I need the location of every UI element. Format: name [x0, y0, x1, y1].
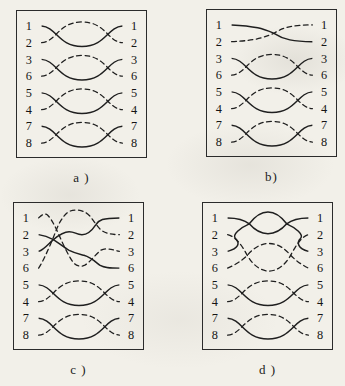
wire-dashed-2 [39, 214, 120, 266]
panel-b-box: 1236547812365478 [206, 9, 337, 157]
row-label-right-2: 2 [128, 228, 134, 242]
row-label-left-8: 8 [216, 135, 222, 149]
panel-a: 1236547812365478 a ) [16, 10, 147, 186]
row-label-left-7: 7 [212, 311, 218, 325]
row-label-right-7: 7 [131, 119, 137, 133]
row-label-left-7: 7 [216, 118, 222, 132]
row-label-right-8: 8 [128, 328, 134, 342]
wire-solid-0 [39, 218, 120, 251]
row-label-left-6: 6 [23, 261, 29, 275]
row-label-right-1: 1 [128, 211, 134, 225]
row-label-left-1: 1 [216, 18, 222, 32]
row-label-right-2: 2 [321, 35, 327, 49]
panel-c-box: 1236547812365478 [13, 202, 144, 350]
row-label-left-5: 5 [216, 85, 222, 99]
wire-solid-0 [232, 25, 313, 42]
panel-a-box: 1236547812365478 [16, 10, 147, 158]
row-label-left-3: 3 [23, 245, 29, 259]
row-label-left-6: 6 [26, 69, 32, 83]
panel-d-caption: d ) [202, 362, 333, 378]
row-label-right-6: 6 [131, 69, 137, 83]
row-label-right-5: 5 [131, 86, 137, 100]
row-label-left-1: 1 [26, 19, 32, 33]
row-label-right-3: 3 [321, 52, 327, 66]
panel-c-diagram: 1236547812365478 [14, 203, 143, 349]
row-label-left-2: 2 [216, 35, 222, 49]
row-label-left-1: 1 [212, 211, 218, 225]
row-label-right-5: 5 [128, 278, 134, 292]
row-label-right-4: 4 [131, 103, 137, 117]
panel-d: 1236547812365478 d ) [202, 202, 333, 378]
row-label-left-4: 4 [26, 103, 32, 117]
row-label-left-3: 3 [216, 52, 222, 66]
panel-d-diagram: 1236547812365478 [203, 203, 332, 349]
row-label-right-7: 7 [128, 311, 134, 325]
row-label-left-6: 6 [216, 68, 222, 82]
row-label-right-6: 6 [128, 261, 134, 275]
row-label-right-8: 8 [321, 135, 327, 149]
row-label-left-3: 3 [212, 245, 218, 259]
row-label-right-1: 1 [321, 18, 327, 32]
panel-c-caption: c ) [13, 362, 144, 378]
row-label-right-2: 2 [317, 228, 323, 242]
wire-solid-1 [228, 212, 309, 251]
row-label-left-7: 7 [26, 119, 32, 133]
row-label-left-8: 8 [212, 328, 218, 342]
row-label-left-5: 5 [23, 278, 29, 292]
row-label-right-2: 2 [131, 36, 137, 50]
row-label-right-4: 4 [321, 102, 327, 116]
panel-b-diagram: 1236547812365478 [207, 10, 336, 156]
wire-dashed-2 [228, 235, 309, 271]
row-label-left-2: 2 [26, 36, 32, 50]
panel-b: 1236547812365478 b) [206, 9, 337, 185]
row-label-right-1: 1 [131, 19, 137, 33]
row-label-left-2: 2 [212, 228, 218, 242]
row-label-right-3: 3 [317, 245, 323, 259]
row-label-right-6: 6 [317, 261, 323, 275]
row-label-right-4: 4 [128, 295, 134, 309]
panel-b-caption: b) [206, 169, 337, 185]
panel-a-caption: a ) [16, 170, 147, 186]
row-label-left-1: 1 [23, 211, 29, 225]
wire-solid-0 [228, 218, 309, 234]
wire-dashed-3 [228, 244, 309, 269]
row-label-right-6: 6 [321, 68, 327, 82]
row-label-right-3: 3 [131, 53, 137, 67]
row-label-left-6: 6 [212, 261, 218, 275]
row-label-left-2: 2 [23, 228, 29, 242]
row-label-right-3: 3 [128, 245, 134, 259]
row-label-right-4: 4 [317, 295, 323, 309]
row-label-left-4: 4 [23, 295, 29, 309]
row-label-right-1: 1 [317, 211, 323, 225]
row-label-left-7: 7 [23, 311, 29, 325]
row-label-left-5: 5 [26, 86, 32, 100]
row-label-left-4: 4 [212, 295, 218, 309]
row-label-right-5: 5 [321, 85, 327, 99]
row-label-right-5: 5 [317, 278, 323, 292]
row-label-left-5: 5 [212, 278, 218, 292]
row-label-right-7: 7 [317, 311, 323, 325]
panel-c: 1236547812365478 c ) [13, 202, 144, 378]
wire-solid-1 [39, 235, 120, 268]
row-label-left-3: 3 [26, 53, 32, 67]
row-label-left-8: 8 [23, 328, 29, 342]
panel-d-box: 1236547812365478 [202, 202, 333, 350]
row-label-left-4: 4 [216, 102, 222, 116]
row-label-right-8: 8 [131, 136, 137, 150]
row-label-left-8: 8 [26, 136, 32, 150]
row-label-right-8: 8 [317, 328, 323, 342]
row-label-right-7: 7 [321, 118, 327, 132]
panel-a-diagram: 1236547812365478 [17, 11, 146, 157]
